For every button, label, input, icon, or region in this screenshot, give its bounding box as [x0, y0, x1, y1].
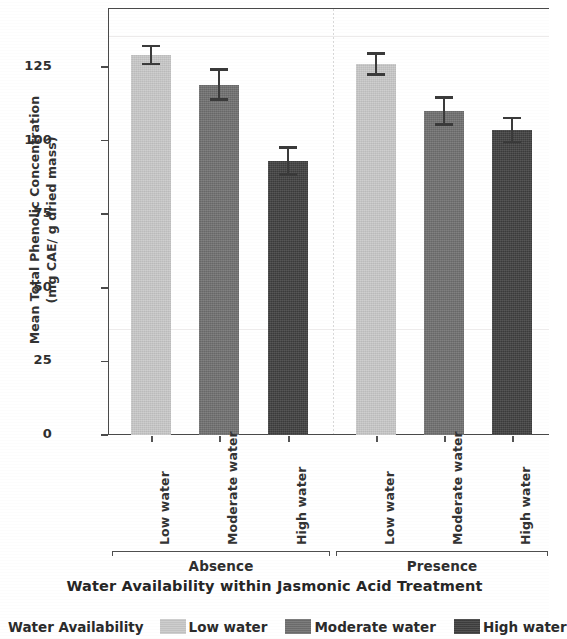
x-category-label: High water: [518, 466, 533, 545]
legend-entry-high-water[interactable]: High water: [454, 619, 567, 635]
plot-area: [108, 8, 549, 435]
x-category-label: Moderate water: [450, 431, 465, 545]
bar-presence-low-water: [356, 64, 396, 435]
y-tick-mark: [101, 66, 108, 68]
legend-entry-low-water[interactable]: Low water: [160, 619, 268, 635]
bar-absence-moderate-water: [199, 85, 239, 435]
legend-label-moderate-water: Moderate water: [314, 619, 435, 635]
y-tick-mark: [101, 140, 108, 142]
x-tick-mark: [376, 436, 378, 442]
x-axis-title: Water Availability within Jasmonic Acid …: [0, 578, 549, 594]
bar-presence-high-water: [492, 130, 532, 435]
x-category-label: Moderate water: [225, 431, 240, 545]
x-category-label: Low water: [157, 471, 172, 545]
bar-absence-low-water: [131, 55, 171, 435]
group-bracket-absence: [112, 551, 330, 552]
legend-swatch-high-water: [454, 619, 480, 634]
y-tick-label: 100: [10, 132, 52, 147]
y-tick-label: 125: [10, 58, 52, 73]
group-label-presence: Presence: [336, 558, 548, 574]
y-tick-mark: [101, 213, 108, 215]
legend: Water Availability Low water Moderate wa…: [0, 614, 549, 639]
legend-entry-moderate-water[interactable]: Moderate water: [285, 619, 435, 635]
x-tick-mark: [219, 436, 221, 442]
y-tick-label: 50: [10, 279, 52, 294]
panel-divider: [333, 9, 334, 434]
x-tick-mark: [288, 436, 290, 442]
y-tick-mark: [101, 287, 108, 289]
legend-swatch-moderate-water: [285, 619, 311, 634]
x-tick-mark: [151, 436, 153, 442]
y-tick-label: 0: [10, 426, 52, 441]
group-label-absence: Absence: [112, 558, 330, 574]
y-tick-mark: [101, 434, 108, 436]
legend-title: Water Availability: [8, 619, 144, 635]
y-tick-mark: [101, 361, 108, 363]
legend-swatch-low-water: [160, 619, 186, 634]
legend-label-high-water: High water: [483, 619, 567, 635]
x-tick-mark: [512, 436, 514, 442]
y-axis-ticks: 0255075100125: [0, 0, 108, 639]
x-category-label: Low water: [382, 471, 397, 545]
y-tick-label: 25: [10, 352, 52, 367]
group-bracket-presence: [336, 551, 548, 552]
x-category-label: High water: [294, 466, 309, 545]
legend-label-low-water: Low water: [189, 619, 268, 635]
bar-absence-high-water: [268, 161, 308, 435]
bar-presence-moderate-water: [424, 111, 464, 435]
x-tick-mark: [444, 436, 446, 442]
y-tick-label: 75: [10, 205, 52, 220]
